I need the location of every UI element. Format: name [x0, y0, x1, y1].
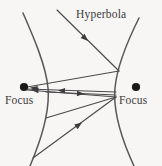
incoming-ray-lower: [33, 97, 116, 158]
hyperbola-right-branch: [115, 18, 139, 166]
focus-dot-left: [20, 83, 28, 91]
focus-dot-right: [132, 83, 140, 91]
focus-label-left: Focus: [5, 94, 33, 106]
hyperbola-figure: Hyperbola Focus Focus: [0, 0, 162, 166]
figure-canvas: [0, 0, 162, 166]
arrowhead-outgoing-mid-icon: [77, 91, 84, 97]
base-ray-lower: [46, 97, 116, 118]
focus-label-right: Focus: [119, 94, 147, 106]
reflected-ray-upper: [27, 71, 119, 87]
hyperbola-label: Hyperbola: [76, 8, 126, 20]
